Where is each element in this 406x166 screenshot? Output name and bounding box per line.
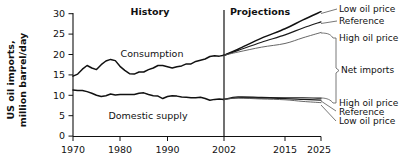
- leader-reference-bottom: [321, 101, 336, 111]
- oil-imports-line-chart: US oil imports, million barrel/day 30 25…: [0, 0, 406, 166]
- annotation-low-oil-price-bottom: Low oil price: [339, 116, 396, 126]
- y-axis-title-line1: US oil imports,: [5, 40, 16, 119]
- domestic-supply-label: Domestic supply: [108, 110, 187, 121]
- domestic-supply-annotation-leaders: [321, 98, 336, 121]
- series-consumption-reference: [224, 22, 321, 55]
- x-tick-label-2025: 2025: [307, 144, 331, 155]
- y-axis-title: US oil imports, million barrel/day: [5, 32, 28, 127]
- x-tick-label-1970: 1970: [61, 144, 85, 155]
- x-tick-label-1980: 1980: [108, 144, 132, 155]
- x-tick-label-2015: 2015: [273, 144, 297, 155]
- y-axis-ticks: 30 25 20 15 10 5 0: [53, 8, 73, 141]
- y-axis-title-line2: million barrel/day: [17, 32, 28, 127]
- leader-high-oil-price-top: [321, 33, 333, 38]
- consumption-label: Consumption: [121, 48, 184, 59]
- series-consumption-high-oil-price: [224, 32, 321, 55]
- y-tick-label-30: 30: [53, 8, 65, 19]
- consumption-annotation-leaders: [321, 9, 337, 38]
- y-tick-label-0: 0: [59, 130, 65, 141]
- net-imports-bracket: [333, 38, 339, 103]
- leader-reference-top: [321, 21, 337, 24]
- annotation-net-imports: Net imports: [341, 65, 394, 75]
- series-paths: [73, 12, 321, 103]
- chart-container: US oil imports, million barrel/day 30 25…: [0, 0, 406, 166]
- y-tick-label-5: 5: [59, 110, 65, 121]
- projections-label: Projections: [230, 6, 291, 17]
- leader-low-oil-price-bottom: [321, 105, 336, 121]
- y-tick-label-10: 10: [53, 90, 65, 101]
- annotation-low-oil-price-top: Low oil price: [339, 4, 396, 14]
- x-tick-label-1990: 1990: [155, 144, 179, 155]
- annotation-high-oil-price-top: High oil price: [339, 33, 399, 43]
- leader-low-oil-price-top: [321, 9, 337, 14]
- x-tick-label-2002: 2002: [212, 144, 236, 155]
- y-tick-label-20: 20: [53, 49, 65, 60]
- x-axis-ticks: 1970 1980 1990 2002 2015 2025: [61, 137, 331, 156]
- series-consumption-low-oil-price: [224, 12, 321, 56]
- right-annotations: Low oil price Reference High oil price N…: [339, 4, 399, 126]
- annotation-reference-top: Reference: [339, 16, 385, 26]
- series-domestic-supply-history: [73, 90, 224, 100]
- y-tick-label-25: 25: [53, 28, 65, 39]
- history-label: History: [131, 6, 171, 17]
- y-tick-label-15: 15: [53, 69, 65, 80]
